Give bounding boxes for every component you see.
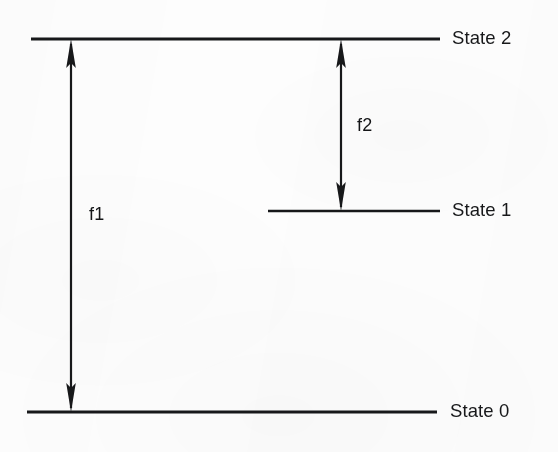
energy-level-lines bbox=[27, 39, 440, 412]
diagram-canvas bbox=[0, 0, 558, 452]
state-label-state-2: State 2 bbox=[452, 29, 511, 48]
energy-level-diagram: State 2 State 1 State 0 f1 f2 bbox=[0, 0, 558, 452]
transition-label-f1: f1 bbox=[89, 205, 104, 223]
transition-arrow-f1 bbox=[66, 39, 76, 412]
transition-label-f2: f2 bbox=[357, 116, 372, 134]
state-label-state-0: State 0 bbox=[450, 402, 509, 421]
state-label-state-1: State 1 bbox=[452, 201, 511, 220]
transition-arrow-f2 bbox=[336, 39, 346, 211]
